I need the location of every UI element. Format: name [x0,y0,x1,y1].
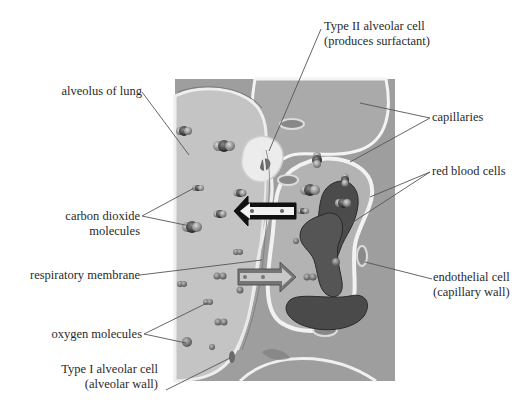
label-respiratory-membrane: respiratory membrane [0,268,140,283]
diagram-illustration [0,0,529,410]
label-type-i-cell: Type I alveolar cell (alveolar wall) [20,362,158,392]
label-endothelial-cell: endothelial cell (capillary wall) [433,270,510,300]
label-co2-line1: carbon dioxide [20,209,140,224]
endothelial-nucleus [357,246,367,266]
label-alveolus: alveolus of lung [40,84,142,99]
label-type-ii-line1: Type II alveolar cell [324,19,430,34]
label-type-i-line1: Type I alveolar cell [20,362,158,377]
endothelial-nucleus [280,119,304,129]
label-co2-line2: molecules [20,224,140,239]
label-type-ii-cell: Type II alveolar cell (produces surfacta… [324,19,430,49]
type-i-nucleus [229,351,235,363]
label-endothelial-line2: (capillary wall) [433,285,510,300]
alveolus-gas-exchange-diagram: alveolus of lung Type II alveolar cell (… [0,0,529,410]
label-oxygen-molecules: oxygen molecules [20,327,142,342]
label-type-i-line2: (alveolar wall) [20,377,158,392]
label-type-ii-line2: (produces surfactant) [324,34,430,49]
label-red-blood-cells: red blood cells [432,164,506,179]
label-carbon-dioxide: carbon dioxide molecules [20,209,140,239]
label-endothelial-line1: endothelial cell [433,270,510,285]
endothelial-nucleus [278,175,298,185]
label-capillaries: capillaries [432,110,483,125]
